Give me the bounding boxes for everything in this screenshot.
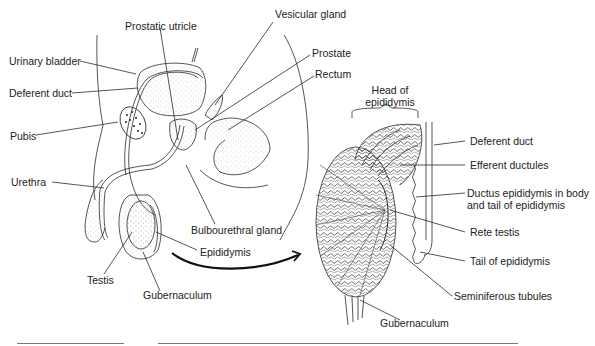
label-rectum: Rectum [315,68,351,80]
label-pubis: Pubis [10,130,36,142]
label-urinary-bladder: Urinary bladder [9,55,81,67]
label-head-of-epididymis: Head of epididymis [360,84,420,108]
label-seminiferous-tubules: Seminiferous tubules [454,290,552,302]
label-testis: Testis [87,274,114,286]
label-vesicular-gland: Vesicular gland [275,8,346,20]
label-rete-testis: Rete testis [470,226,520,238]
testis-section-drawing [316,104,465,325]
label-epididymis: Epididymis [200,246,251,258]
label-gubernaculum-left: Gubernaculum [143,289,212,301]
divider-left [17,343,124,344]
label-prostatic-utricle: Prostatic utricle [125,20,197,32]
label-deferent-duct-right: Deferent duct [470,135,533,147]
label-tail-of-epididymis: Tail of epididymis [470,255,550,267]
label-urethra: Urethra [11,176,46,188]
label-deferent-duct-left: Deferent duct [9,87,72,99]
label-ductus-epididymis: Ductus epididymis in body and tail of ep… [467,187,589,211]
label-gubernaculum-right: Gubernaculum [380,317,449,329]
anatomy-figure: Prostatic utricle Vesicular gland Urinar… [0,0,595,346]
label-bulbourethral-gland: Bulbourethral gland [191,224,282,236]
label-efferent-ductules: Efferent ductules [470,159,549,171]
label-prostate: Prostate [312,47,351,59]
divider-right [158,343,518,344]
